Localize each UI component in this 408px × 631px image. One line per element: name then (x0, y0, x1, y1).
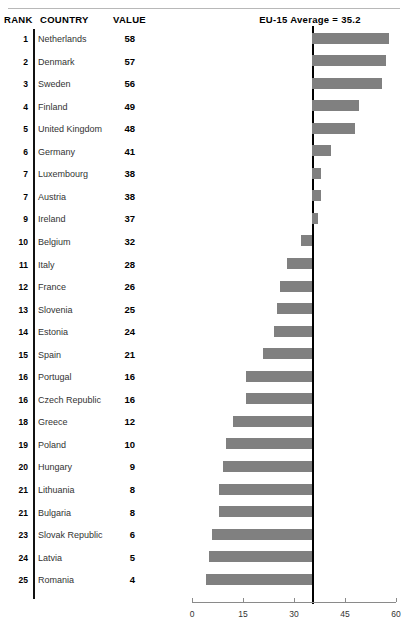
cell-rank: 1 (0, 34, 28, 45)
cell-country: Denmark (38, 57, 75, 68)
x-axis-tick-label: 45 (332, 609, 358, 619)
cell-value: 26 (105, 281, 135, 292)
table-row: 3Sweden56 (0, 75, 408, 97)
table-row: 9Ireland37 (0, 210, 408, 232)
cell-country: Lithuania (38, 485, 75, 496)
cell-value: 32 (105, 236, 135, 247)
cell-country: Finland (38, 102, 68, 113)
table-row: 7Luxembourg38 (0, 165, 408, 187)
cell-rank: 21 (0, 485, 28, 496)
cell-country: Hungary (38, 462, 72, 473)
cell-rank: 13 (0, 305, 28, 316)
cell-rank: 11 (0, 260, 28, 271)
x-axis-tick-label: 0 (179, 609, 205, 619)
cell-value: 56 (105, 78, 135, 89)
cell-value: 9 (105, 461, 135, 472)
table-row: 21Lithuania8 (0, 481, 408, 503)
table-row: 19Poland10 (0, 436, 408, 458)
cell-country: Slovak Republic (38, 530, 103, 541)
cell-value: 16 (105, 371, 135, 382)
table-row: 12France26 (0, 278, 408, 300)
cell-country: Portugal (38, 372, 72, 383)
x-axis-tick (345, 598, 346, 602)
cell-value: 4 (105, 574, 135, 585)
cell-value: 24 (105, 326, 135, 337)
cell-rank: 5 (0, 124, 28, 135)
table-row: 7Austria38 (0, 188, 408, 210)
cell-rank: 19 (0, 440, 28, 451)
cell-rank: 2 (0, 57, 28, 68)
cell-country: Belgium (38, 237, 71, 248)
cell-country: Czech Republic (38, 395, 101, 406)
table-row: 18Greece12 (0, 413, 408, 435)
cell-country: Estonia (38, 327, 68, 338)
table-row: 6Germany41 (0, 143, 408, 165)
cell-rank: 9 (0, 214, 28, 225)
cell-rank: 4 (0, 102, 28, 113)
table-row: 5United Kingdom48 (0, 120, 408, 142)
x-axis-tick (192, 598, 193, 602)
cell-value: 12 (105, 416, 135, 427)
cell-country: Greece (38, 417, 68, 428)
cell-value: 21 (105, 349, 135, 360)
table-row: 2Denmark57 (0, 53, 408, 75)
cell-rank: 16 (0, 395, 28, 406)
table-row: 13Slovenia25 (0, 301, 408, 323)
table-row: 16Czech Republic16 (0, 391, 408, 413)
x-axis-tick (396, 598, 397, 602)
table-row: 21Bulgaria8 (0, 504, 408, 526)
cell-rank: 23 (0, 530, 28, 541)
x-axis-tick-label: 15 (230, 609, 256, 619)
table-row: 4Finland49 (0, 98, 408, 120)
cell-rank: 21 (0, 508, 28, 519)
cell-rank: 3 (0, 79, 28, 90)
cell-country: Netherlands (38, 34, 87, 45)
cell-value: 5 (105, 552, 135, 563)
cell-country: Latvia (38, 553, 62, 564)
table-row: 10Belgium32 (0, 233, 408, 255)
table-row: 24Latvia5 (0, 549, 408, 571)
x-axis-tick (243, 598, 244, 602)
cell-rank: 14 (0, 327, 28, 338)
cell-value: 48 (105, 123, 135, 134)
cell-rank: 12 (0, 282, 28, 293)
cell-value: 49 (105, 101, 135, 112)
cell-rank: 7 (0, 169, 28, 180)
x-axis-line (192, 602, 396, 603)
column-header-value: VALUE (113, 14, 146, 25)
table-row: 11Italy28 (0, 256, 408, 278)
cell-value: 38 (105, 191, 135, 202)
cell-value: 6 (105, 529, 135, 540)
table-row: 23Slovak Republic6 (0, 526, 408, 548)
cell-country: Romania (38, 575, 74, 586)
chart-title-average: EU-15 Average = 35.2 (212, 14, 408, 25)
cell-country: Ireland (38, 214, 66, 225)
x-axis-tick-label: 30 (281, 609, 307, 619)
cell-value: 8 (105, 507, 135, 518)
cell-value: 10 (105, 439, 135, 450)
cell-country: Poland (38, 440, 66, 451)
table-row: 20Hungary9 (0, 458, 408, 480)
x-axis-tick-label: 60 (383, 609, 408, 619)
chart-page: RANK COUNTRY VALUE EU-15 Average = 35.2 … (0, 0, 408, 631)
cell-country: United Kingdom (38, 124, 102, 135)
cell-country: Spain (38, 350, 61, 361)
cell-rank: 20 (0, 462, 28, 473)
cell-value: 38 (105, 168, 135, 179)
cell-value: 16 (105, 394, 135, 405)
cell-country: Italy (38, 260, 55, 271)
cell-rank: 10 (0, 237, 28, 248)
table-header-row: RANK COUNTRY VALUE EU-15 Average = 35.2 (0, 14, 408, 28)
cell-country: Slovenia (38, 305, 73, 316)
cell-country: France (38, 282, 66, 293)
table-row: 15Spain21 (0, 346, 408, 368)
top-divider-rule (8, 8, 400, 9)
cell-value: 8 (105, 484, 135, 495)
table-row: 1Netherlands58 (0, 30, 408, 52)
cell-value: 37 (105, 213, 135, 224)
x-axis-tick (294, 598, 295, 602)
cell-rank: 25 (0, 575, 28, 586)
column-header-rank: RANK (4, 14, 33, 25)
table-row: 16Portugal16 (0, 368, 408, 390)
cell-country: Bulgaria (38, 508, 71, 519)
